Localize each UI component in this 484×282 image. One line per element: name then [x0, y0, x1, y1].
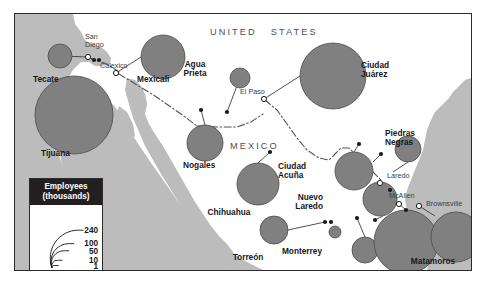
us-city-label-calexico: Calexico	[100, 62, 128, 70]
us-city-marker-brownsville[interactable]	[416, 203, 421, 208]
legend-tick-240: 240	[84, 226, 98, 235]
legend-nested-circles: 24010050101	[30, 205, 102, 271]
city-label-nuevo-laredo: Nuevo Laredo	[295, 193, 323, 210]
us-city-label-laredo: Laredo	[387, 172, 409, 180]
city-label-nogales: Nogales	[183, 161, 215, 170]
city-label-mexicali: Mexicali	[137, 75, 169, 84]
border-crossing-dot[interactable]	[329, 220, 333, 224]
city-label-piedras-negras: Piedras Negras	[385, 129, 415, 146]
city-label-ciudad-ju-rez: Ciudad Juárez	[361, 61, 389, 78]
legend-arc-1	[52, 266, 54, 268]
city-symbol-mexicali[interactable]	[141, 35, 185, 79]
city-label-matamoros: Matamoros	[411, 257, 455, 266]
border-crossing-dot[interactable]	[355, 216, 359, 220]
city-symbol-monterrey[interactable]	[329, 226, 341, 238]
legend-arc-240	[50, 231, 78, 269]
us-city-label-el-paso: El Paso	[240, 88, 265, 96]
city-symbol-agua-prieta[interactable]	[230, 68, 250, 88]
border-crossing-dot[interactable]	[92, 58, 96, 62]
city-label-tecate: Tecate	[33, 75, 59, 84]
legend-tick-50: 50	[89, 247, 99, 256]
us-city-label-brownsville: Brownsville	[426, 200, 462, 208]
border-crossing-dot[interactable]	[199, 108, 203, 112]
city-label-tijuana: Tijuana	[41, 149, 70, 158]
city-label-agua-prieta: Agua Prieta	[183, 60, 206, 77]
us-city-label-san-diego: San Diego	[85, 33, 104, 48]
city-label-torre-n: Torreón	[233, 253, 264, 262]
city-symbol-torre-n[interactable]	[260, 216, 288, 244]
legend-title-line1: Employees	[30, 182, 102, 192]
legend-tick-1: 1	[93, 262, 98, 271]
border-crossing-dot[interactable]	[225, 110, 229, 114]
us-city-marker-mcallen[interactable]	[396, 201, 401, 206]
us-city-label-mcallen: McAllen	[389, 192, 415, 200]
city-symbol-chihuahua[interactable]	[237, 163, 279, 205]
border-crossing-dot[interactable]	[357, 142, 361, 146]
us-city-marker-calexico[interactable]	[113, 70, 118, 75]
border-crossing-dot[interactable]	[379, 152, 383, 156]
border-crossing-dot[interactable]	[323, 220, 327, 224]
legend-title: Employees (thousands)	[30, 179, 102, 205]
city-symbol-ciudad-ju-rez[interactable]	[300, 43, 366, 109]
us-city-marker-san-diego[interactable]	[85, 54, 90, 59]
border-crossing-dot[interactable]	[404, 208, 408, 212]
city-label-monterrey: Monterrey	[282, 247, 322, 256]
city-symbol-matamoros[interactable]	[431, 212, 471, 262]
legend-body: 24010050101	[30, 205, 102, 271]
city-label-chihuahua: Chihuahua	[208, 208, 251, 217]
city-symbol-tijuana[interactable]	[35, 76, 113, 154]
us-city-marker-el-paso[interactable]	[261, 96, 266, 101]
city-symbol-nogales[interactable]	[187, 125, 223, 161]
us-city-marker-laredo[interactable]	[377, 180, 382, 185]
map-frame: TecateTijuanaMexicaliAgua PrietaNogalesC…	[14, 13, 472, 271]
legend: Employees (thousands) 24010050101	[29, 178, 103, 271]
city-symbol-ciudad-acu-a[interactable]	[335, 152, 373, 190]
border-crossing-dot[interactable]	[373, 218, 377, 222]
map-figure: TecateTijuanaMexicaliAgua PrietaNogalesC…	[0, 0, 484, 282]
city-label-ciudad-acu-a: Ciudad Acuña	[278, 162, 306, 179]
legend-title-line2: (thousands)	[30, 192, 102, 202]
legend-arc-10	[52, 261, 58, 269]
region-label-mexico: MEXICO	[230, 142, 279, 152]
region-label-united-states: UNITED STATES	[210, 28, 318, 38]
city-symbol-tecate[interactable]	[48, 44, 72, 68]
